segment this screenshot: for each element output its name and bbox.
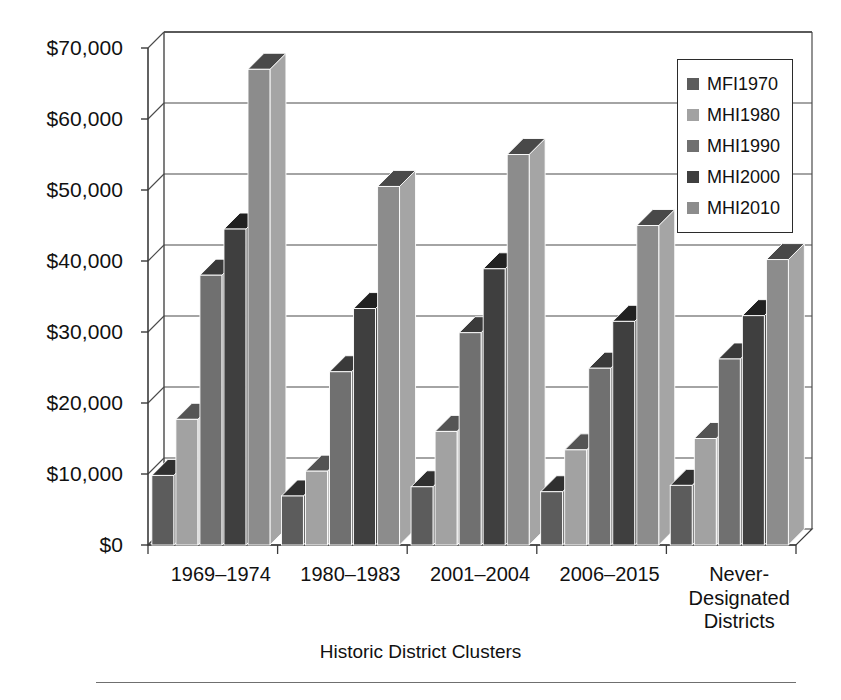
legend-item-label: MHI1980 [707, 106, 780, 124]
legend-swatch-icon [687, 202, 699, 214]
legend-item[interactable]: MHI2000 [678, 161, 792, 192]
chart-legend: MFI1970MHI1980MHI1990MHI2000MHI2010 [677, 59, 793, 233]
legend-item-label: MHI2010 [707, 199, 780, 217]
legend-item-label: MHI1990 [707, 137, 780, 155]
legend-item[interactable]: MHI2010 [678, 192, 792, 223]
x-axis-tick-label: Never- Designated Districts [659, 563, 819, 634]
chart-figure: $0$10,000$20,000$30,000$40,000$50,000$60… [0, 0, 841, 700]
legend-swatch-icon [687, 140, 699, 152]
legend-item[interactable]: MFI1970 [678, 68, 792, 99]
legend-item-label: MFI1970 [707, 75, 778, 93]
legend-swatch-icon [687, 78, 699, 90]
legend-item-label: MHI2000 [707, 168, 780, 186]
bottom-divider-rule [96, 682, 796, 683]
legend-item[interactable]: MHI1980 [678, 99, 792, 130]
x-axis-title: Historic District Clusters [0, 641, 841, 663]
legend-item[interactable]: MHI1990 [678, 130, 792, 161]
legend-swatch-icon [687, 171, 699, 183]
legend-swatch-icon [687, 109, 699, 121]
